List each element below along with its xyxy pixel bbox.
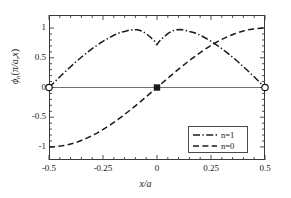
legend-item[interactable]: n=0 xyxy=(192,140,244,151)
x-axis-tick-label: -0.5 xyxy=(29,163,69,173)
legend-item[interactable]: n=1 xyxy=(192,129,244,140)
marker-filled-square-center xyxy=(154,84,160,90)
x-axis-label-text: x/a xyxy=(139,178,151,189)
y-axis-tick-label: 1 xyxy=(20,23,46,32)
x-axis-label: x/a xyxy=(0,178,291,189)
marker-open-circle-right xyxy=(262,84,268,90)
y-axis-label-x: x xyxy=(9,52,20,56)
y-axis-tick-label: -0.5 xyxy=(20,112,46,121)
figure-canvas: ϕn(π/a,x) x/a 10.50-0.5-1 -0.5-0.2500.25… xyxy=(0,0,291,198)
y-axis-label-arg: π/a, xyxy=(9,57,20,72)
x-axis-tick-label: 0.25 xyxy=(191,163,231,173)
y-axis-label-phi: ϕ xyxy=(9,79,20,84)
y-axis-label-open-paren: ( xyxy=(9,72,20,75)
y-axis-label-subscript: n xyxy=(14,75,22,79)
y-axis-label: ϕn(π/a,x) xyxy=(9,19,22,115)
legend-line-sample xyxy=(192,130,218,140)
marker-open-circle-left xyxy=(46,84,52,90)
legend-line-sample xyxy=(192,141,218,151)
y-axis-label-close-paren: ) xyxy=(9,49,20,52)
legend-box: n=1n=0 xyxy=(188,126,248,153)
legend-label: n=1 xyxy=(221,130,234,140)
y-axis-tick-label: -1 xyxy=(20,142,46,151)
y-axis-tick-label: 0 xyxy=(20,83,46,92)
legend-label: n=0 xyxy=(221,141,234,151)
x-axis-tick-label: 0.5 xyxy=(245,163,285,173)
x-axis-tick-label: -0.25 xyxy=(83,163,123,173)
x-axis-tick-label: 0 xyxy=(137,163,177,173)
curve-n-1 xyxy=(49,30,265,88)
y-axis-tick-label: 0.5 xyxy=(20,53,46,62)
